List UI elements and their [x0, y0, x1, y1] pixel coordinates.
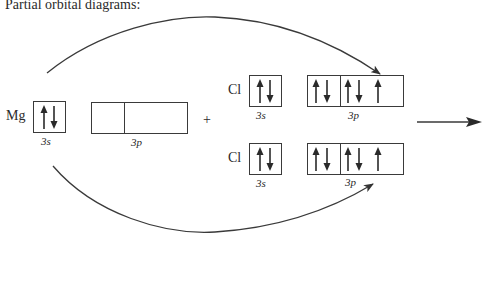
diagram-arrows-layer: [0, 0, 489, 293]
spin-up-icon: [375, 79, 382, 103]
spin-up-icon: [257, 147, 264, 171]
spin-up-icon: [257, 79, 264, 103]
spin-up-icon: [375, 147, 382, 171]
spin-down-icon: [324, 80, 331, 103]
spin-up-icon: [345, 147, 352, 171]
spin-up-icon: [313, 79, 320, 103]
spin-up-icon: [345, 79, 352, 103]
spin-down-icon: [356, 148, 363, 171]
spin-down-icon: [267, 80, 274, 103]
spin-down-icon: [267, 148, 274, 171]
electron-spin-arrows: [41, 79, 382, 171]
spin-up-icon: [41, 105, 48, 129]
top-transfer-arrow-icon: [47, 17, 380, 74]
spin-up-icon: [313, 147, 320, 171]
spin-down-icon: [51, 106, 58, 129]
spin-down-icon: [324, 148, 331, 171]
spin-down-icon: [356, 80, 363, 103]
reaction-arrow-icon: [417, 117, 482, 127]
bottom-transfer-arrow-icon: [53, 166, 373, 232]
